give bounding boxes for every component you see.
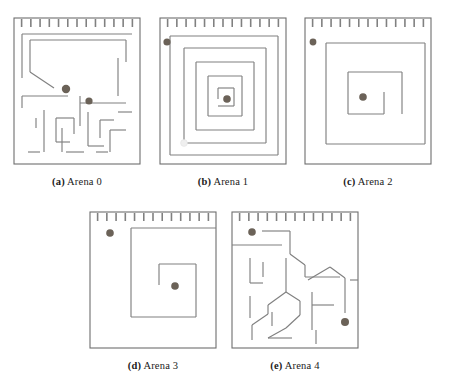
caption-tag: (d) bbox=[128, 360, 141, 371]
agent-marker bbox=[163, 38, 170, 45]
arena-cell-arena0: (a) Arena 0 bbox=[6, 10, 148, 192]
caption-tag: (c) bbox=[343, 176, 355, 187]
agent-marker bbox=[310, 39, 317, 46]
arena-plot-arena3 bbox=[82, 204, 224, 356]
agent-marker bbox=[62, 85, 70, 93]
arena-plot-arena2 bbox=[297, 10, 439, 172]
agent-marker bbox=[341, 318, 349, 326]
arena-figure: (a) Arena 0(b) Arena 1(c) Arena 2(d) Are… bbox=[0, 0, 452, 389]
caption-label: Arena 2 bbox=[358, 176, 393, 187]
arena-cell-arena4: (e) Arena 4 bbox=[224, 204, 366, 376]
caption-label: Arena 0 bbox=[67, 176, 102, 187]
agent-marker bbox=[223, 95, 231, 103]
caption-label: Arena 3 bbox=[143, 360, 178, 371]
arena-cell-arena2: (c) Arena 2 bbox=[297, 10, 439, 192]
arena-cell-arena1: (b) Arena 1 bbox=[152, 10, 294, 192]
agent-marker bbox=[171, 282, 179, 290]
arena-boundary bbox=[305, 18, 431, 164]
arena-plot-arena1 bbox=[152, 10, 294, 172]
arena-caption-arena2: (c) Arena 2 bbox=[297, 176, 439, 187]
agent-marker bbox=[106, 229, 114, 237]
caption-tag: (e) bbox=[270, 360, 282, 371]
caption-label: Arena 4 bbox=[285, 360, 320, 371]
arena-caption-arena0: (a) Arena 0 bbox=[6, 176, 148, 187]
arena-caption-arena4: (e) Arena 4 bbox=[224, 360, 366, 371]
arena-caption-arena1: (b) Arena 1 bbox=[152, 176, 294, 187]
arena-boundary bbox=[160, 18, 286, 164]
agent-marker bbox=[359, 93, 367, 101]
arena-plot-arena4 bbox=[224, 204, 366, 356]
agent-marker bbox=[85, 97, 92, 104]
arena-caption-arena3: (d) Arena 3 bbox=[82, 360, 224, 371]
goal-marker bbox=[181, 140, 188, 147]
arena-cell-arena3: (d) Arena 3 bbox=[82, 204, 224, 376]
arena-plot-arena0 bbox=[6, 10, 148, 172]
caption-label: Arena 1 bbox=[213, 176, 248, 187]
caption-tag: (b) bbox=[198, 176, 211, 187]
caption-tag: (a) bbox=[52, 176, 65, 187]
agent-marker bbox=[248, 228, 256, 236]
